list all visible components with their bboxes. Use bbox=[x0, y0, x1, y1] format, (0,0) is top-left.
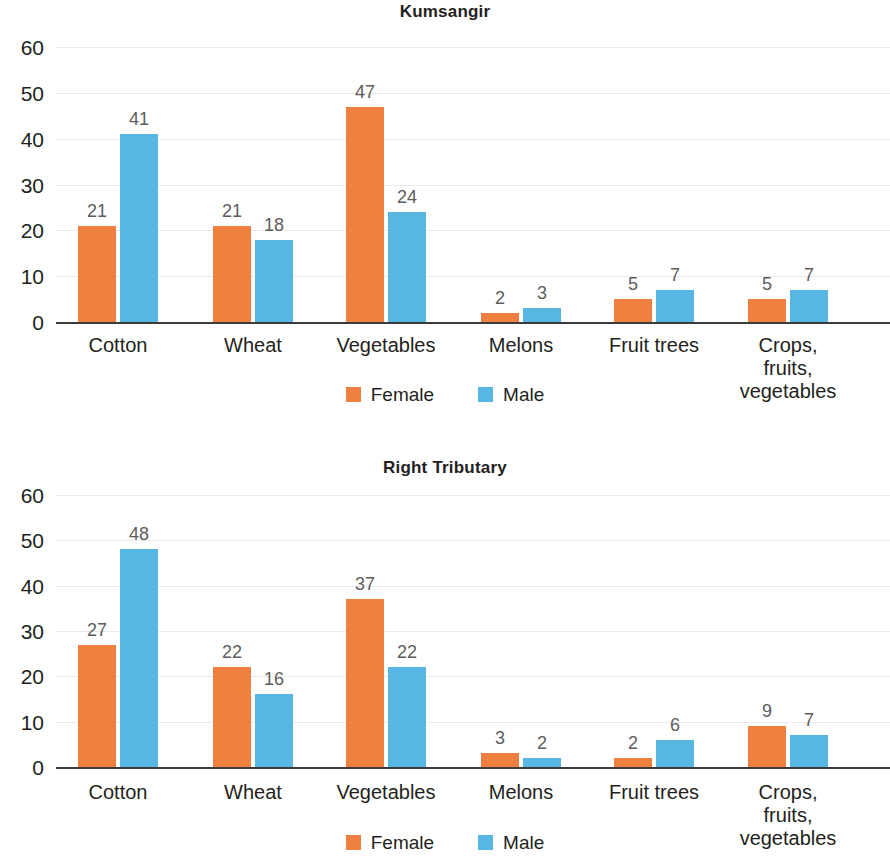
category-label: Vegetables bbox=[337, 334, 436, 357]
gridline bbox=[56, 93, 890, 94]
legend-item-female[interactable]: Female bbox=[346, 833, 434, 852]
bar-male-2[interactable] bbox=[388, 212, 426, 322]
gridline bbox=[56, 540, 890, 541]
bar-value-label: 2 bbox=[495, 289, 505, 307]
bar-value-label: 21 bbox=[87, 202, 107, 220]
bar-male-3[interactable] bbox=[523, 758, 561, 767]
bar-value-label: 2 bbox=[628, 734, 638, 752]
bar-male-4[interactable] bbox=[656, 290, 694, 322]
category-label: Wheat bbox=[224, 781, 282, 804]
legend-label-female: Female bbox=[371, 833, 434, 852]
bar-female-0[interactable] bbox=[78, 645, 116, 767]
y-axis-tick-label: 0 bbox=[32, 757, 44, 778]
category-label: Fruit trees bbox=[609, 334, 699, 357]
bar-value-label: 41 bbox=[129, 110, 149, 128]
y-axis-tick-label: 40 bbox=[21, 128, 44, 149]
legend-right-tributary: Female Male bbox=[0, 833, 890, 852]
bar-male-5[interactable] bbox=[790, 735, 828, 767]
legend-swatch-female-icon bbox=[346, 387, 361, 402]
legend-swatch-female-icon bbox=[346, 835, 361, 850]
plot-area-right-tributary: 0102030405060274822163722322697 bbox=[56, 495, 890, 767]
bar-male-4[interactable] bbox=[656, 740, 694, 767]
bar-value-label: 3 bbox=[537, 284, 547, 302]
legend-swatch-male-icon bbox=[478, 835, 493, 850]
category-label: Melons bbox=[489, 334, 553, 357]
y-axis-tick-label: 20 bbox=[21, 220, 44, 241]
gridline bbox=[56, 230, 890, 231]
bar-value-label: 21 bbox=[222, 202, 242, 220]
bar-female-2[interactable] bbox=[346, 107, 384, 322]
x-axis-baseline bbox=[56, 767, 890, 769]
gridline bbox=[56, 631, 890, 632]
bar-female-3[interactable] bbox=[481, 313, 519, 322]
bar-male-5[interactable] bbox=[790, 290, 828, 322]
y-axis-tick-label: 60 bbox=[21, 37, 44, 58]
category-label: Fruit trees bbox=[609, 781, 699, 804]
bar-female-4[interactable] bbox=[614, 758, 652, 767]
y-axis-tick-label: 40 bbox=[21, 575, 44, 596]
y-axis-tick-label: 30 bbox=[21, 621, 44, 642]
bar-male-2[interactable] bbox=[388, 667, 426, 767]
category-label: Cotton bbox=[89, 334, 148, 357]
bar-value-label: 6 bbox=[670, 716, 680, 734]
gridline bbox=[56, 722, 890, 723]
bar-female-1[interactable] bbox=[213, 226, 251, 322]
bar-value-label: 5 bbox=[628, 275, 638, 293]
y-axis-tick-label: 30 bbox=[21, 174, 44, 195]
category-label: Wheat bbox=[224, 334, 282, 357]
bar-value-label: 24 bbox=[397, 188, 417, 206]
bar-female-0[interactable] bbox=[78, 226, 116, 322]
y-axis-tick-label: 10 bbox=[21, 711, 44, 732]
bar-value-label: 16 bbox=[264, 670, 284, 688]
bar-female-1[interactable] bbox=[213, 667, 251, 767]
gridline bbox=[56, 185, 890, 186]
bar-value-label: 7 bbox=[804, 266, 814, 284]
category-label: Melons bbox=[489, 781, 553, 804]
bar-male-1[interactable] bbox=[255, 240, 293, 323]
chart-title-right-tributary: Right Tributary bbox=[0, 458, 890, 478]
bar-male-1[interactable] bbox=[255, 694, 293, 767]
y-axis-tick-label: 60 bbox=[21, 485, 44, 506]
y-axis-tick-label: 10 bbox=[21, 266, 44, 287]
legend-label-male: Male bbox=[503, 833, 544, 852]
bar-value-label: 48 bbox=[129, 525, 149, 543]
bar-female-5[interactable] bbox=[748, 299, 786, 322]
bar-value-label: 27 bbox=[87, 621, 107, 639]
chart-right-tributary: Right Tributary 010203040506027482216372… bbox=[0, 440, 890, 860]
bar-value-label: 47 bbox=[355, 83, 375, 101]
bar-value-label: 3 bbox=[495, 729, 505, 747]
bar-value-label: 9 bbox=[762, 702, 772, 720]
gridline bbox=[56, 47, 890, 48]
bar-value-label: 22 bbox=[397, 643, 417, 661]
bar-female-3[interactable] bbox=[481, 753, 519, 767]
gridline bbox=[56, 586, 890, 587]
y-axis-tick-label: 0 bbox=[32, 312, 44, 333]
legend-item-female[interactable]: Female bbox=[346, 385, 434, 404]
plot-area-kumsangir: 0102030405060214121184724235757 bbox=[56, 47, 890, 322]
bar-value-label: 18 bbox=[264, 216, 284, 234]
gridline bbox=[56, 495, 890, 496]
bar-value-label: 7 bbox=[804, 711, 814, 729]
bar-male-0[interactable] bbox=[120, 549, 158, 767]
bar-value-label: 22 bbox=[222, 643, 242, 661]
bar-male-3[interactable] bbox=[523, 308, 561, 322]
x-axis-baseline bbox=[56, 322, 890, 324]
legend-label-male: Male bbox=[503, 385, 544, 404]
bar-value-label: 37 bbox=[355, 575, 375, 593]
bar-male-0[interactable] bbox=[120, 134, 158, 322]
y-axis-tick-label: 50 bbox=[21, 82, 44, 103]
gridline bbox=[56, 676, 890, 677]
bar-female-5[interactable] bbox=[748, 726, 786, 767]
legend-swatch-male-icon bbox=[478, 387, 493, 402]
category-label: Vegetables bbox=[337, 781, 436, 804]
bar-value-label: 7 bbox=[670, 266, 680, 284]
bar-female-2[interactable] bbox=[346, 599, 384, 767]
bar-value-label: 2 bbox=[537, 734, 547, 752]
legend-item-male[interactable]: Male bbox=[478, 385, 544, 404]
legend-item-male[interactable]: Male bbox=[478, 833, 544, 852]
bar-value-label: 5 bbox=[762, 275, 772, 293]
category-label: Cotton bbox=[89, 781, 148, 804]
y-axis-tick-label: 20 bbox=[21, 666, 44, 687]
bar-female-4[interactable] bbox=[614, 299, 652, 322]
legend-kumsangir: Female Male bbox=[0, 385, 890, 404]
